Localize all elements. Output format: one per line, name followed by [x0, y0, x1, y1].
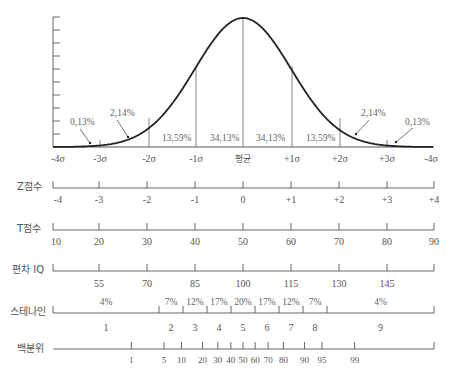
scale-tick-label: 20 [94, 236, 104, 247]
area-label: 13,59% [162, 133, 191, 143]
sigma-label: -4σ [51, 153, 65, 164]
scale-tick-label: -2 [143, 194, 151, 205]
area-label: 2,14% [110, 108, 135, 118]
deviation-iq-label: 편차 IQ [12, 264, 44, 275]
scale-tick-label: 7 [289, 322, 294, 333]
scale-tick-label: 70 [334, 236, 344, 247]
scale-tick-label: 20 [198, 355, 208, 365]
scale-tick-label: 8 [313, 322, 318, 333]
scale-tick-label: 85 [190, 278, 200, 289]
scale-tick-label: +4 [429, 194, 440, 205]
scale-tick-label: +1 [286, 194, 297, 205]
scale-tick-label: 2 [169, 322, 174, 333]
sigma-label: -2σ [142, 153, 156, 164]
scale-tick-label: 3 [193, 322, 198, 333]
scale-tick-label: 20% [234, 297, 252, 307]
sigma-label: +1σ [284, 153, 301, 164]
z-score-label: Z점수 [17, 181, 42, 192]
scale-tick-label: 4 [217, 322, 222, 333]
scale-tick-label: 145 [380, 278, 395, 289]
sigma-label: -3σ [93, 153, 107, 164]
sigma-label: +2σ [332, 153, 349, 164]
scale-tick-label: 0 [241, 194, 246, 205]
scale-tick-label: 70 [142, 278, 152, 289]
normal-distribution-diagram: 0,13% 2,14% 13,59% 34,13% 34,13% 13,59% … [0, 0, 453, 381]
scale-tick-label: 7% [165, 297, 178, 307]
sigma-label: +3σ [379, 153, 396, 164]
mean-label: 평균 [235, 154, 251, 164]
area-label: 13,59% [306, 133, 335, 143]
scale-tick-label: 6 [265, 322, 270, 333]
scale-tick-label: 10 [51, 236, 61, 247]
scale-tick-label: 115 [284, 278, 299, 289]
scale-tick-label: -4 [54, 194, 62, 205]
stanine-label: 스테나인 [10, 306, 46, 317]
scale-tick-label: 99 [350, 355, 360, 365]
area-label: 34,13% [210, 133, 239, 143]
scale-tick-label: 10 [177, 355, 187, 365]
scale-tick-label: 50 [239, 355, 249, 365]
scale-tick-label: 95 [317, 355, 327, 365]
sigma-labels: -4σ -3σ -2σ -1σ 평균 +1σ +2σ +3σ -4σ [51, 153, 438, 164]
scale-tick-label: 4% [100, 297, 113, 307]
z-score-scale: Z점수 -4-3-2-10+1+2+3+4 [17, 181, 439, 205]
scale-tick-label: 80 [279, 355, 289, 365]
scale-tick-label: +2 [334, 194, 345, 205]
area-label: 0,13% [70, 117, 95, 127]
percentile-label: 백분위 [17, 342, 44, 354]
scale-tick-label: 5 [241, 322, 246, 333]
scale-tick-label: 80 [382, 236, 392, 247]
scale-tick-label: 60 [251, 355, 261, 365]
scale-tick-label: 30 [142, 236, 152, 247]
deviation-iq-scale: 편차 IQ 557085100115130145 [12, 264, 434, 289]
scale-tick-label: -1 [191, 194, 199, 205]
sigma-label: -1σ [189, 153, 203, 164]
scale-tick-label: 12% [186, 297, 204, 307]
scale-tick-label: 60 [286, 236, 296, 247]
scale-tick-label: 12% [282, 297, 300, 307]
percentile-scale: 백분위 151020304050607080909599 [17, 342, 434, 365]
scale-tick-label: 4% [374, 297, 387, 307]
scale-tick-label: 90 [300, 355, 310, 365]
scale-tick-label: 17% [258, 297, 276, 307]
scale-tick-label: 70 [264, 355, 274, 365]
sigma-label: -4σ [424, 153, 438, 164]
scale-tick-label: 90 [429, 236, 439, 247]
curve-y-axis [53, 17, 60, 147]
scale-tick-label: 40 [226, 355, 236, 365]
area-label: 0,13% [405, 117, 430, 127]
scale-tick-label: 9 [378, 322, 383, 333]
scale-tick-label: 1 [129, 355, 134, 365]
stanine-scale: 스테나인 4%17%212%317%420%517%612%77%84%9 [10, 297, 434, 333]
scale-tick-label: 7% [309, 297, 322, 307]
area-labels: 0,13% 2,14% 13,59% 34,13% 34,13% 13,59% … [70, 108, 430, 143]
t-score-label: T점수 [16, 223, 41, 234]
scale-tick-label: -3 [95, 194, 103, 205]
scale-tick-label: 130 [332, 278, 347, 289]
scale-tick-label: 100 [236, 278, 251, 289]
scale-tick-label: 55 [94, 278, 104, 289]
scale-tick-label: 17% [210, 297, 228, 307]
area-label: 34,13% [256, 133, 285, 143]
scale-tick-label: 5 [162, 355, 167, 365]
scale-tick-label: 50 [238, 236, 248, 247]
scale-tick-label: 1 [104, 322, 109, 333]
scale-tick-label: +3 [382, 194, 393, 205]
sigma-divider-lines [100, 18, 387, 147]
t-score-scale: T점수 102030405060708090 [16, 223, 439, 247]
area-label: 2,14% [361, 108, 386, 118]
scale-tick-label: 40 [190, 236, 200, 247]
scale-tick-label: 30 [213, 355, 223, 365]
